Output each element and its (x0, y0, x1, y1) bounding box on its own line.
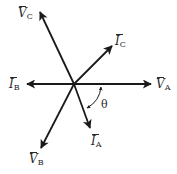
overbar (30, 152, 37, 153)
phasor-symbol: V (18, 6, 27, 20)
angle-theta-label: θ (101, 98, 108, 111)
phasor-label-vc: VC (18, 7, 33, 21)
phasor-diagram: VAVBVCIAIBIC θ (0, 0, 177, 174)
phasor-canvas (0, 0, 177, 174)
phasor-label-ib: IB (9, 78, 20, 92)
overbar (92, 134, 99, 135)
phasor-subscript: B (14, 83, 20, 92)
phasor-subscript: A (96, 140, 102, 149)
phasor-label-va: VA (156, 78, 170, 92)
phasor-arrow-vc (40, 12, 74, 84)
phasor-subscript: A (165, 83, 171, 92)
phasor-subscript: C (120, 40, 126, 49)
overbar (116, 34, 123, 35)
phasor-symbol: V (29, 152, 38, 166)
phasor-label-vb: VB (29, 153, 44, 167)
phasor-arrow-ic (74, 46, 112, 84)
overbar (10, 77, 17, 78)
phasor-subscript: B (38, 158, 44, 167)
phasor-label-ia: IA (91, 135, 102, 149)
phasor-label-ic: IC (115, 35, 126, 49)
overbar (157, 77, 164, 78)
phasor-symbol: V (156, 77, 165, 91)
overbar (19, 6, 26, 7)
phasor-arrow-ia (74, 84, 90, 128)
phasor-arrow-vb (41, 84, 74, 148)
phasor-subscript: C (27, 12, 33, 21)
theta-arc-icon (87, 87, 101, 108)
